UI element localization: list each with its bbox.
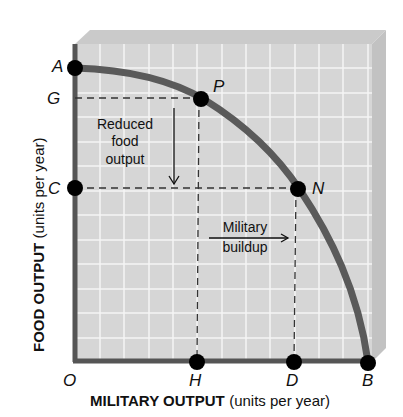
y-axis-unit: (units per year) <box>30 138 47 239</box>
y-axis-title-text: FOOD OUTPUT <box>30 243 47 352</box>
point-D <box>286 354 302 370</box>
reduced-food-label-2: food <box>111 133 138 149</box>
label-P: P <box>213 77 225 96</box>
x-axis-unit: (units per year) <box>229 392 330 409</box>
military-buildup-label-2: buildup <box>222 239 267 255</box>
y-axis-title: FOOD OUTPUT (units per year) <box>30 138 48 353</box>
label-H: H <box>189 371 202 390</box>
point-P <box>193 91 209 107</box>
label-D: D <box>286 371 298 390</box>
point-B <box>360 355 376 371</box>
label-N: N <box>312 179 325 198</box>
label-C: C <box>48 179 61 198</box>
point-C <box>67 180 83 196</box>
label-O: O <box>63 371 76 390</box>
label-G: G <box>47 89 60 108</box>
label-A: A <box>51 57 63 76</box>
point-H <box>189 354 205 370</box>
box-right-bevel <box>372 30 386 362</box>
reduced-food-label-1: Reduced <box>97 116 153 132</box>
reduced-food-label-3: output <box>106 151 145 167</box>
x-axis-title-text: MILITARY OUTPUT <box>90 392 225 409</box>
military-buildup-label-1: Military <box>223 219 267 235</box>
x-axis-title: MILITARY OUTPUT (units per year) <box>90 392 330 410</box>
point-N <box>290 181 306 197</box>
label-B: B <box>362 371 373 390</box>
box-top-bevel <box>75 30 386 44</box>
point-A <box>67 60 83 76</box>
ppf-chart: Reduced food output Military buildup A G… <box>0 0 403 417</box>
